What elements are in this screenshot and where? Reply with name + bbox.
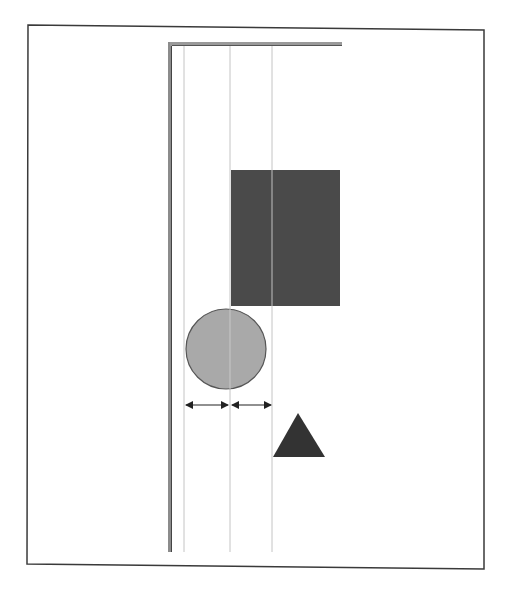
gray-circle — [186, 309, 266, 389]
dark-triangle — [273, 413, 325, 457]
dark-rectangle — [231, 170, 340, 306]
aligned-shapes — [186, 170, 340, 457]
diagram-canvas — [0, 0, 507, 595]
